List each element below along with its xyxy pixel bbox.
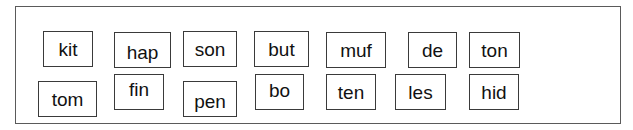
word-label: muf bbox=[340, 41, 372, 60]
word-label: tom bbox=[52, 90, 84, 109]
word-card-tom: tom bbox=[38, 81, 97, 117]
word-label: ton bbox=[481, 41, 507, 60]
word-label: son bbox=[195, 40, 226, 59]
word-card-muf: muf bbox=[326, 32, 386, 68]
word-label: kit bbox=[59, 40, 78, 59]
word-card-ten: ten bbox=[326, 74, 376, 110]
word-label: hid bbox=[481, 83, 506, 102]
word-label: hap bbox=[127, 43, 159, 62]
word-card-frame bbox=[15, 6, 621, 124]
word-card-hid: hid bbox=[469, 74, 519, 110]
word-card-bo: bo bbox=[255, 74, 304, 110]
word-label: but bbox=[268, 40, 294, 59]
word-card-kit: kit bbox=[43, 31, 93, 67]
word-card-son: son bbox=[183, 31, 237, 67]
word-label: fin bbox=[129, 80, 149, 99]
word-card-fin: fin bbox=[114, 74, 164, 110]
word-label: bo bbox=[269, 81, 290, 100]
word-card-pen: pen bbox=[183, 81, 237, 117]
word-card-ton: ton bbox=[469, 32, 520, 68]
word-card-de: de bbox=[408, 32, 457, 68]
word-label: de bbox=[422, 41, 443, 60]
word-label: ten bbox=[338, 83, 364, 102]
word-card-les: les bbox=[395, 74, 446, 110]
word-label: les bbox=[408, 83, 432, 102]
word-card-hap: hap bbox=[114, 32, 171, 68]
word-label: pen bbox=[194, 92, 226, 111]
word-card-but: but bbox=[254, 31, 309, 67]
